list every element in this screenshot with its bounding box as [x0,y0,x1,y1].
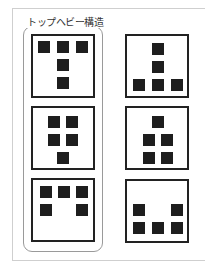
square [171,79,183,91]
square [152,222,164,234]
square [161,134,173,146]
square [76,186,88,198]
pattern-box-right-3 [125,179,189,243]
pattern-box-right-2 [125,106,189,170]
square [40,186,52,198]
square [57,152,69,164]
square [143,134,155,146]
square [171,204,183,216]
square [76,41,88,53]
square [57,41,69,53]
square [48,134,60,146]
pattern-box-left-2 [31,106,95,170]
square [76,204,88,216]
pattern-box-right-1 [125,34,189,98]
square [66,134,78,146]
pattern-box-left-1 [31,34,95,98]
square [133,222,145,234]
square [133,204,145,216]
square [152,61,164,73]
square [58,186,70,198]
square [38,41,50,53]
square [57,59,69,71]
square [40,204,52,216]
square [171,222,183,234]
square [152,116,164,128]
top-heavy-group-label: トップヘビー構造 [26,17,104,28]
square [133,79,145,91]
square [161,152,173,164]
square [143,152,155,164]
pattern-box-left-3 [31,178,95,242]
square [57,77,69,89]
square [152,43,164,55]
square [152,79,164,91]
square [48,116,60,128]
square [66,116,78,128]
